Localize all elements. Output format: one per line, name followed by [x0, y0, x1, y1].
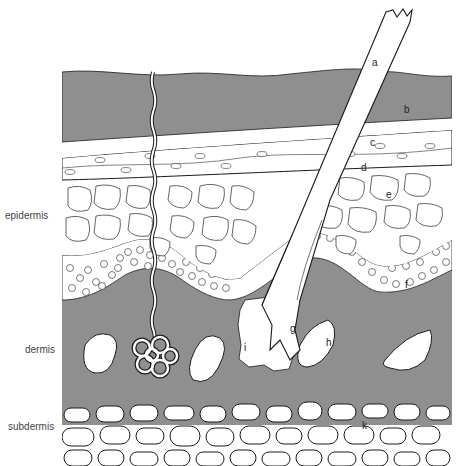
skin-cross-section-diagram: a b c d e f g h i k — [0, 0, 460, 466]
label-e: e — [386, 189, 392, 200]
label-a: a — [372, 57, 378, 68]
label-i: i — [244, 342, 246, 353]
label-d: d — [361, 162, 367, 173]
label-g: g — [290, 323, 296, 334]
label-b: b — [404, 104, 410, 115]
label-c: c — [370, 137, 375, 148]
label-f: f — [405, 279, 408, 290]
label-h: h — [326, 337, 332, 348]
